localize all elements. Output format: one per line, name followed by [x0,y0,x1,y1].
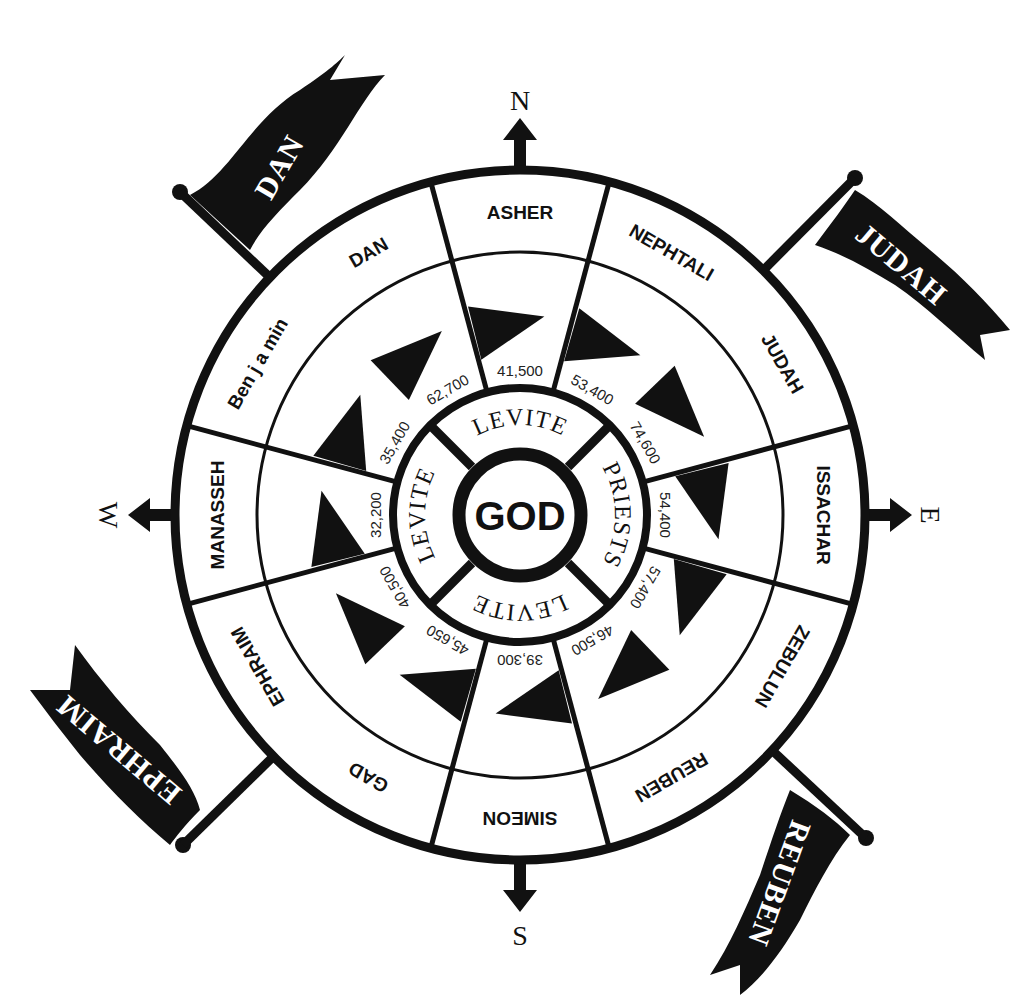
compass-west-label: W [93,502,124,529]
arrow-north-icon [503,118,537,172]
banner-judah: JUDAH [815,170,1010,360]
compass-east-label: E [915,506,946,523]
tribe-name: ISSACHAR [813,465,834,565]
god-label: GOD [474,494,565,538]
tribe-population: 41,500 [497,362,543,379]
camp-wheel: ASHERNEPHTALIJUDAHISSACHARZEBULUNREUBENS… [175,170,865,860]
arrow-east-icon [865,498,912,532]
arrow-south-icon [503,858,537,912]
camp-of-israel-diagram: DAN JUDAH REUBEN EPHRAIM N E S W ASHER [0,0,1018,1007]
banner-ephraim: EPHRAIM [30,645,200,853]
tribe-population: 32,200 [367,492,384,538]
compass-north-label: N [510,85,530,116]
tribe-population: 54,400 [657,492,674,538]
tribe-name: MANASSEH [207,461,228,570]
tribe-name: SIMEON [483,808,558,829]
tribe-name: ASHER [487,202,554,223]
tribe-population: 39,300 [497,652,543,669]
compass-south-label: S [512,920,528,951]
arrow-west-icon [128,498,175,532]
